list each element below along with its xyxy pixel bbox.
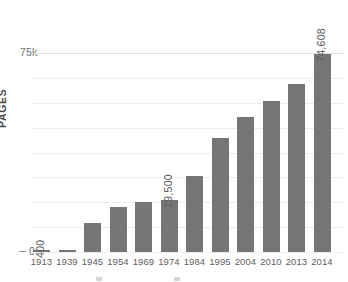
y-axis-title: PAGES: [0, 89, 8, 128]
bar-2014[interactable]: [314, 54, 331, 252]
x-axis-label-2010: 2010: [258, 256, 284, 267]
x-axis-label-2014: 2014: [309, 256, 335, 267]
gridline: [33, 53, 344, 54]
x-axis-label-1995: 1995: [207, 256, 233, 267]
bar-1954[interactable]: [110, 207, 127, 252]
x-axis-label-2013: 2013: [284, 256, 310, 267]
gridline: [33, 252, 344, 253]
legend-strip: [96, 275, 246, 282]
legend-swatch-2: [174, 277, 180, 281]
bar-1939[interactable]: [59, 250, 76, 252]
plot-area: 40019,50074,608: [33, 53, 344, 252]
x-axis-label-2004: 2004: [233, 256, 259, 267]
bar-1945[interactable]: [84, 223, 101, 252]
bar-chart: PAGES 75k 0 40019,50074,608 191319391945…: [0, 0, 348, 282]
bar-1974[interactable]: [161, 200, 178, 252]
bar-value-label-2014: 74,608: [315, 28, 327, 62]
bar-1969[interactable]: [135, 202, 152, 252]
x-axis-label-1945: 1945: [80, 256, 106, 267]
x-axis-label-1969: 1969: [131, 256, 157, 267]
x-axis-label-1913: 1913: [29, 256, 55, 267]
legend-swatch-1: [96, 277, 102, 281]
bar-2010[interactable]: [263, 101, 280, 252]
bar-2004[interactable]: [237, 117, 254, 252]
bar-1984[interactable]: [186, 176, 203, 252]
x-axis-label-1954: 1954: [105, 256, 131, 267]
bar-value-label-1974: 19,500: [162, 174, 174, 208]
gridline: [33, 78, 344, 79]
x-axis-label-1974: 1974: [156, 256, 182, 267]
bar-2013[interactable]: [288, 84, 305, 252]
y-axis-zero-dash: [19, 251, 26, 252]
x-axis-label-1939: 1939: [54, 256, 80, 267]
x-axis-label-1984: 1984: [182, 256, 208, 267]
bar-1995[interactable]: [212, 138, 229, 252]
